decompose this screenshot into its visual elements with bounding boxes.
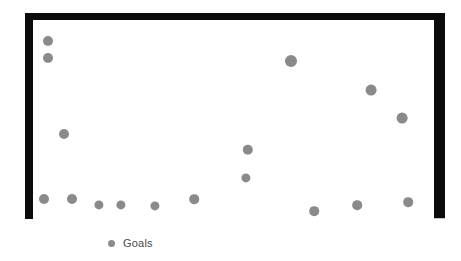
legend-label-goals: Goals — [123, 238, 153, 249]
data-point — [67, 194, 77, 204]
data-point — [309, 206, 319, 216]
data-point — [39, 194, 49, 204]
data-point — [43, 53, 53, 63]
plot-area — [33, 20, 434, 219]
legend: Goals — [108, 235, 153, 251]
data-point — [59, 129, 69, 139]
data-point — [352, 200, 362, 210]
data-point — [285, 55, 297, 67]
legend-marker-icon — [108, 240, 115, 247]
scatter-chart: Goals — [0, 0, 461, 261]
data-point — [43, 36, 53, 46]
data-point — [403, 197, 413, 207]
data-point — [189, 194, 199, 204]
data-point — [366, 85, 377, 96]
data-point — [397, 113, 408, 124]
